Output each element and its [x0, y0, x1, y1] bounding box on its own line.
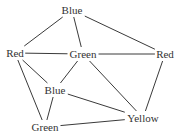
- graph-edge: [47, 97, 53, 120]
- graph-node-red-right: Red: [155, 49, 175, 60]
- graph-node-yellow: Yellow: [126, 113, 159, 124]
- graph-edge: [25, 53, 67, 54]
- graph-node-green-center: Green: [69, 49, 98, 60]
- graph-edge: [68, 94, 125, 112]
- graph-edge: [61, 120, 125, 126]
- graph-node-red-left: Red: [5, 48, 25, 59]
- graph-edge: [145, 61, 162, 111]
- graph-edge: [24, 17, 62, 46]
- graph-edge: [74, 17, 82, 47]
- graph-node-blue-top: Blue: [61, 5, 84, 16]
- graph-edge: [60, 61, 77, 83]
- graph-coloring-diagram: BlueRedGreenRedBlueGreenYellow: [0, 0, 181, 139]
- graph-edge: [18, 60, 42, 120]
- graph-node-green-bottom: Green: [31, 122, 60, 133]
- graph-edge: [85, 16, 155, 49]
- graph-node-blue-mid: Blue: [44, 85, 67, 96]
